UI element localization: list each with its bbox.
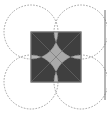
geometry-figure	[0, 0, 107, 113]
